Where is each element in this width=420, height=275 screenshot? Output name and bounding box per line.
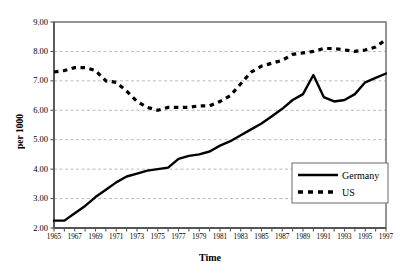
plot-area: GermanyUS [0,0,420,275]
legend-label-us: US [342,187,355,198]
series-line-us [54,40,386,111]
legend-label-germany: Germany [342,170,379,181]
chart-container: per 1000 Time 9.008.007.006.005.004.003.… [0,0,420,275]
